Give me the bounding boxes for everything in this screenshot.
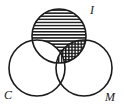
set-label-m: M xyxy=(104,90,116,104)
venn-diagram-figure: I C M xyxy=(0,0,124,110)
set-label-c: C xyxy=(4,88,13,102)
venn-diagram-canvas: I C M xyxy=(0,0,124,110)
